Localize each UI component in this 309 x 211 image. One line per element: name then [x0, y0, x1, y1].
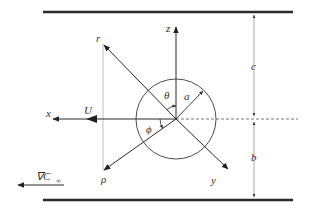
- y-axis-arrow: [176, 119, 228, 169]
- y-axis-label: y: [210, 174, 216, 186]
- radius-arrow: [176, 91, 203, 119]
- theta-label: θ: [164, 89, 170, 101]
- gradient-subscript: ∞: [56, 177, 61, 185]
- gradient-label: ∇C: [36, 170, 51, 182]
- rho-axis-label: ρ: [100, 173, 106, 185]
- radius-label: a: [184, 90, 190, 102]
- rho-axis-arrow: [104, 119, 176, 170]
- velocity-u-arrowhead: [86, 115, 97, 123]
- theta-angle-arc: [167, 106, 176, 110]
- phi-angle-arc: [160, 119, 163, 128]
- z-axis-label: z: [165, 22, 171, 34]
- r-axis-arrow: [104, 45, 176, 119]
- phi-label: ϕ: [146, 123, 152, 135]
- velocity-label: U: [84, 104, 93, 116]
- x-axis-label: x: [45, 107, 51, 119]
- cylinder-in-channel-diagram: z x U r ρ y θ a ϕ c b ∇C ∞: [0, 0, 309, 211]
- gap-top-label: c: [251, 60, 256, 72]
- r-axis-label: r: [96, 32, 101, 44]
- gap-bottom-label: b: [251, 151, 257, 163]
